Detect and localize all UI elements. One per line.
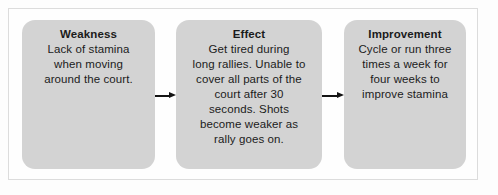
flow-node-effect-title: Effect <box>233 27 266 42</box>
arrow-head <box>337 92 344 98</box>
flow-node-improvement-body: Cycle or run three times a week for four… <box>354 42 455 102</box>
flow-node-effect-line-6: become weaker as <box>193 117 306 132</box>
flow-node-effect-line-7: rally goes on. <box>193 132 306 147</box>
flow-node-weakness-title: Weakness <box>60 27 117 42</box>
flow-node-weakness: Weakness Lack of stamina when moving aro… <box>22 20 155 169</box>
flow-node-improvement-line-4: improve stamina <box>358 87 451 102</box>
flow-node-effect-line-2: long rallies. Unable to <box>193 57 306 72</box>
flow-node-weakness-body: Lack of stamina when moving around the c… <box>40 42 137 87</box>
arrow-shaft <box>322 95 338 97</box>
flow-node-weakness-line-3: around the court. <box>44 72 133 87</box>
flow-node-effect-line-1: Get tired during <box>193 42 306 57</box>
flow-node-effect: Effect Get tired during long rallies. Un… <box>176 20 322 169</box>
arrow-shaft <box>155 95 170 97</box>
flow-node-improvement: Improvement Cycle or run three times a w… <box>344 20 466 169</box>
flow-node-improvement-line-2: times a week for <box>358 57 451 72</box>
flow-node-effect-line-5: seconds. Shots <box>193 102 306 117</box>
flow-node-improvement-line-1: Cycle or run three <box>358 42 451 57</box>
arrow-head <box>169 92 176 98</box>
flow-node-effect-line-4: court after 30 <box>193 87 306 102</box>
flow-node-improvement-line-3: four weeks to <box>358 72 451 87</box>
flow-node-weakness-line-1: Lack of stamina <box>44 42 133 57</box>
flow-node-effect-line-3: cover all parts of the <box>193 72 306 87</box>
flowchart-canvas: Weakness Lack of stamina when moving aro… <box>0 0 498 195</box>
flow-node-weakness-line-2: when moving <box>44 57 133 72</box>
arrow-right-icon-effect-to-improvement <box>322 92 344 99</box>
flow-node-improvement-title: Improvement <box>368 27 441 42</box>
flowchart-screenshot: Weakness Lack of stamina when moving aro… <box>0 0 498 195</box>
flow-node-effect-body: Get tired during long rallies. Unable to… <box>189 42 310 147</box>
arrow-right-icon-weakness-to-effect <box>155 92 176 99</box>
